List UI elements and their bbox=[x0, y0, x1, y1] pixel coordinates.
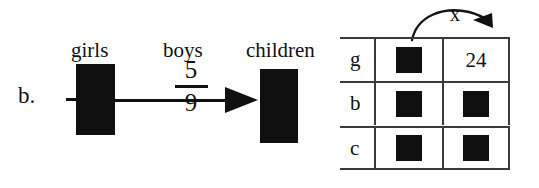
table-cell-c-1[interactable] bbox=[374, 126, 442, 170]
label-girls: girls bbox=[71, 40, 108, 61]
children-bar bbox=[260, 69, 298, 143]
girls-bar bbox=[76, 64, 115, 135]
table-cell-b-1[interactable] bbox=[374, 81, 442, 125]
cell-value: 24 bbox=[466, 50, 487, 71]
girls-bar-tick bbox=[66, 98, 80, 101]
blank-block bbox=[396, 47, 422, 73]
blank-block bbox=[463, 91, 489, 117]
table-row-label-c: c bbox=[340, 126, 374, 170]
ratio-table: g b c 24 bbox=[340, 37, 511, 170]
worksheet-figure: b. girls boys children 5 9 x g b c bbox=[0, 0, 539, 188]
row-label-text: g bbox=[350, 49, 361, 70]
table-cell-c-2[interactable] bbox=[442, 126, 510, 170]
table-row-label-b: b bbox=[340, 81, 374, 125]
blank-block bbox=[463, 135, 489, 161]
fraction-bar bbox=[175, 85, 208, 88]
fraction-numerator: 5 bbox=[170, 57, 212, 83]
table-cell-g-1[interactable] bbox=[374, 37, 442, 81]
blank-block bbox=[396, 91, 422, 117]
row-label-text: c bbox=[350, 138, 359, 159]
table-row-label-g: g bbox=[340, 37, 374, 81]
fraction-denominator: 9 bbox=[170, 90, 212, 116]
label-children: children bbox=[246, 40, 315, 61]
blank-block bbox=[396, 135, 422, 161]
multiplier-label: x bbox=[450, 4, 460, 24]
table-cell-g-2[interactable]: 24 bbox=[442, 37, 510, 81]
problem-letter: b. bbox=[18, 84, 35, 107]
table-cell-b-2[interactable] bbox=[442, 81, 510, 125]
ratio-fraction: 5 9 bbox=[170, 57, 212, 115]
ratio-arrow-head-icon bbox=[225, 87, 258, 113]
row-label-text: b bbox=[350, 93, 361, 114]
